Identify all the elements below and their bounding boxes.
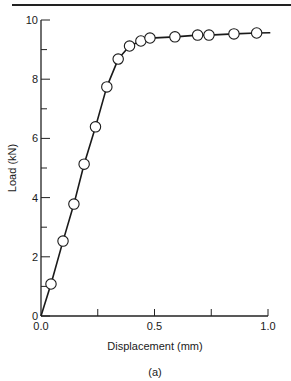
data-markers <box>46 28 262 289</box>
load-displacement-chart: 02468100.00.51.0 Displacement (mm) (a) L… <box>0 0 291 381</box>
data-point-marker <box>79 159 89 169</box>
axes: 02468100.00.51.0 <box>26 14 276 332</box>
load-curve <box>41 33 270 316</box>
data-point-marker <box>113 54 123 64</box>
y-tick-label: 8 <box>32 73 38 85</box>
y-axis-title: Load (kN) <box>6 144 18 192</box>
x-tick-label: 0.5 <box>147 320 162 332</box>
data-point-marker <box>46 279 56 289</box>
y-tick-label: 6 <box>32 132 38 144</box>
data-point-marker <box>58 236 68 246</box>
data-point-marker <box>124 41 134 51</box>
data-point-marker <box>204 30 214 40</box>
data-curve <box>41 33 270 316</box>
data-point-marker <box>90 122 100 132</box>
x-tick-label: 1.0 <box>260 320 275 332</box>
data-point-marker <box>251 28 261 38</box>
figure-caption: (a) <box>148 366 161 378</box>
x-tick-label: 0.0 <box>33 320 48 332</box>
data-point-marker <box>192 30 202 40</box>
data-point-marker <box>145 33 155 43</box>
data-point-marker <box>69 199 79 209</box>
data-point-marker <box>170 32 180 42</box>
data-point-marker <box>229 29 239 39</box>
y-tick-label: 4 <box>32 192 38 204</box>
y-tick-label: 10 <box>26 14 38 26</box>
x-axis-title: Displacement (mm) <box>107 340 202 352</box>
data-point-marker <box>102 82 112 92</box>
y-tick-label: 2 <box>32 251 38 263</box>
